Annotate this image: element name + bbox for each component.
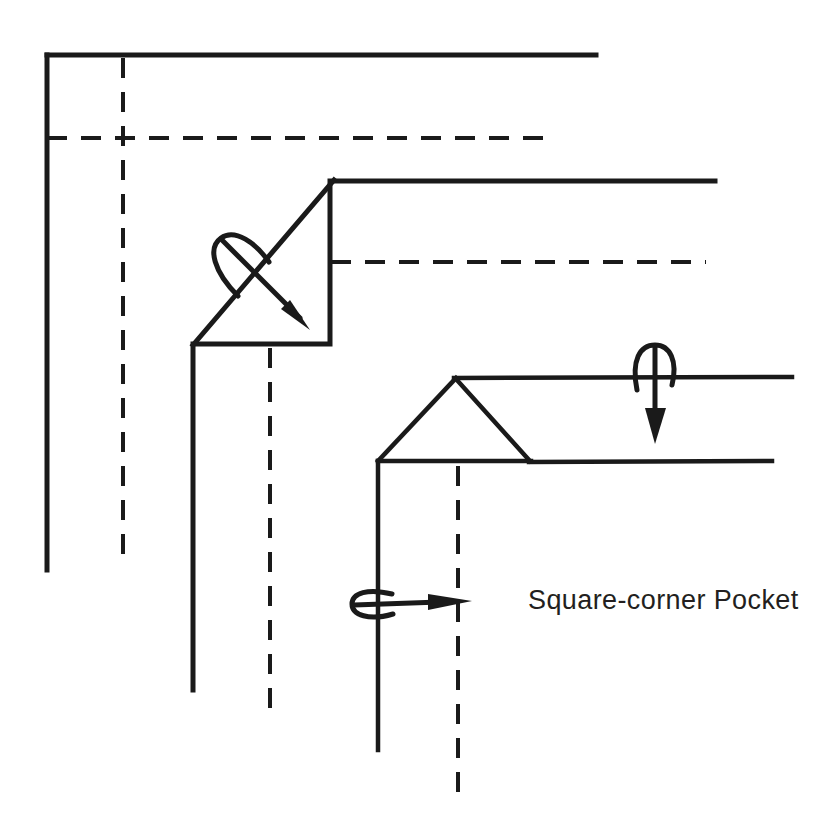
rotation-arrowhead-vertical [645,408,666,444]
inner-pocket-upper-edge [454,377,792,378]
middle-pocket-rotation-arrow-icon [214,235,310,330]
inner-pocket-lower-edge [529,461,772,462]
figure-caption: Square-corner Pocket [528,585,799,616]
stage-3-inner-pocket [352,345,792,792]
rotation-arrowhead-horizontal [428,594,472,610]
inner-pocket-left-slope [378,378,456,461]
stage-2-middle-pocket [193,180,715,716]
inner-pocket-right-slope [456,379,530,461]
rotation-shaft-horizontal [354,602,440,605]
inner-pocket-rotation-arrow-vertical-icon [635,345,674,444]
diagram-canvas: Square-corner Pocket [0,0,832,817]
square-corner-pocket-drawing [0,0,832,817]
inner-pocket-rotation-arrow-horizontal-icon [352,591,472,617]
stage-1-outer-corner [47,55,596,570]
